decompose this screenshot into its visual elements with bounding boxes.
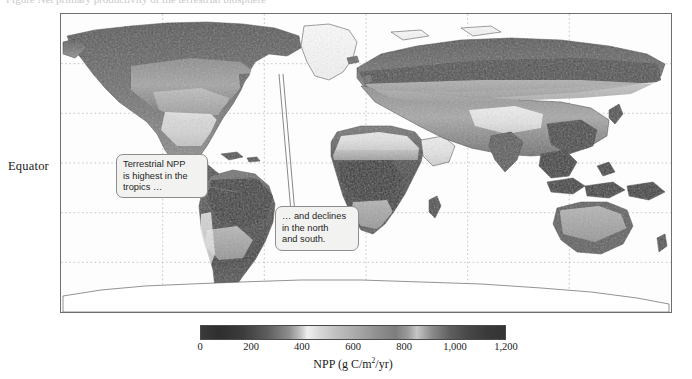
colorbar-tick-1000: 1,000 — [443, 341, 467, 352]
colorbar-tick-0: 0 — [197, 341, 202, 352]
colorbar-axis-label-tail: /yr) — [375, 357, 392, 371]
npp-colorbar-legend: 0 200 400 600 800 1,000 1,200 NPP (g C/m… — [200, 325, 506, 377]
colorbar-axis-label: NPP (g C/m2/yr) — [200, 356, 506, 372]
landmass-british-isles — [363, 74, 373, 84]
colorbar-tick-800: 800 — [396, 341, 412, 352]
callout-tropics: Terrestrial NPP is highest in the tropic… — [116, 154, 208, 198]
colorbar-tick-600: 600 — [345, 341, 361, 352]
clipped-caption-strip: Figure Net primary productivity of the t… — [0, 0, 692, 9]
npp-patch-sahel — [329, 150, 427, 160]
callout-declines: … and declines in the north and south. — [275, 206, 359, 251]
colorbar-axis-label-main: NPP (g C/m — [313, 357, 371, 371]
clipped-caption-text: Figure Net primary productivity of the t… — [6, 0, 266, 5]
colorbar-tick-400: 400 — [294, 341, 310, 352]
colorbar-tick-1200: 1,200 — [494, 341, 518, 352]
npp-world-map-figure: Figure Net primary productivity of the t… — [0, 0, 692, 379]
colorbar-gradient — [200, 325, 506, 340]
colorbar-tick-200: 200 — [243, 341, 259, 352]
equator-label: Equator — [8, 159, 49, 174]
colorbar-ticks: 0 200 400 600 800 1,000 1,200 — [200, 341, 506, 355]
